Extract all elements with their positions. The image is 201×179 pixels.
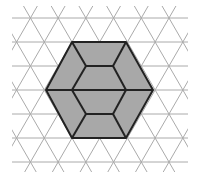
triangular-grid-diagram bbox=[0, 0, 201, 179]
diagram-canvas bbox=[0, 0, 201, 179]
